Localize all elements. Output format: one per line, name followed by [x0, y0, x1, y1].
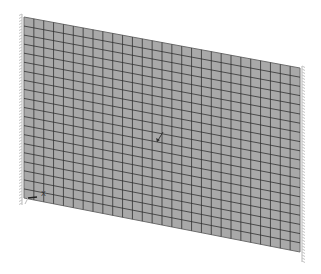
fe-mesh-viewport[interactable]: X [0, 0, 321, 274]
right-support-constraints [302, 66, 305, 263]
fe-mesh-canvas[interactable]: X [0, 0, 321, 274]
x-axis-label: X [41, 190, 46, 198]
left-support-constraints [19, 14, 22, 205]
